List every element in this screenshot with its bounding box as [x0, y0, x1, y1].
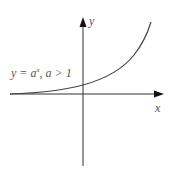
- graph-canvas: y x y = ax, a > 1: [0, 0, 172, 173]
- y-axis-label: y: [88, 14, 95, 28]
- exponential-graph: y x y = ax, a > 1: [0, 0, 172, 173]
- exponential-curve: [10, 22, 151, 94]
- y-axis-arrow-icon: [80, 17, 87, 27]
- function-label-condition: , a > 1: [40, 66, 72, 80]
- x-axis-label: x: [154, 101, 161, 115]
- function-label: y = ax, a > 1: [10, 66, 72, 80]
- function-label-lhs: y = a: [10, 66, 36, 80]
- x-axis-arrow-icon: [154, 91, 164, 98]
